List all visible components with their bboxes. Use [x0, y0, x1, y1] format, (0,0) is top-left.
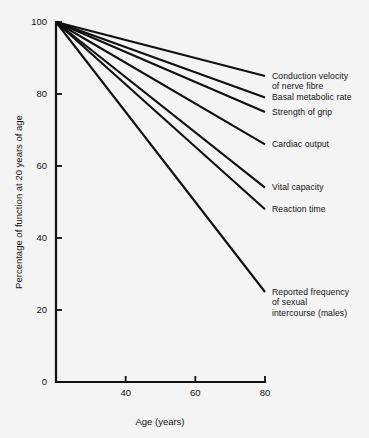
series-label: Basal metabolic rate [272, 92, 352, 103]
y-axis-tick-labels: 020406080100 [31, 16, 47, 387]
series-label: Strength of grip [272, 107, 332, 118]
y-axis-tick-label: 80 [36, 88, 47, 99]
series-line [56, 22, 265, 144]
x-axis-tick-labels: 406080 [120, 387, 270, 398]
series-lines-group [56, 22, 265, 292]
y-axis-tick-label: 60 [36, 160, 47, 171]
axis-lines [56, 22, 265, 382]
y-axis-tick-label: 0 [42, 376, 47, 387]
y-axis-tick-label: 40 [36, 232, 47, 243]
series-label: Conduction velocity of nerve fibre [272, 71, 348, 92]
series-line [56, 22, 265, 292]
x-axis-tick-label: 80 [260, 387, 271, 398]
series-label: Reported frequency of sexual intercourse… [272, 287, 349, 319]
x-axis-tick-label: 40 [120, 387, 131, 398]
axes-group: 020406080100 406080 [31, 16, 270, 398]
series-label: Cardiac output [272, 139, 329, 150]
series-label: Vital capacity [272, 182, 324, 193]
y-axis-tick-label: 20 [36, 304, 47, 315]
y-axis-title: Percentage of function at 20 years of ag… [13, 115, 24, 289]
series-line [56, 22, 265, 98]
x-axis-title: Age (years) [135, 416, 184, 427]
chart-canvas: 020406080100 406080 Age (years) Percenta… [0, 0, 369, 438]
series-line [56, 22, 265, 188]
chart-figure: 020406080100 406080 Age (years) Percenta… [0, 0, 369, 438]
y-axis-tick-label: 100 [31, 16, 47, 27]
series-label: Reaction time [272, 204, 326, 215]
x-axis-tick-label: 60 [190, 387, 201, 398]
